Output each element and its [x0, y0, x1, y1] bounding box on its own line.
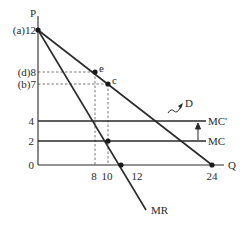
mc-prime-label: MC' — [208, 115, 227, 127]
point-q24 — [209, 162, 214, 167]
point-e-label: e — [99, 62, 104, 74]
point-c-label: c — [112, 74, 117, 86]
y-tick-12: (a)12 — [13, 24, 36, 37]
y-tick-0: 0 — [29, 159, 35, 171]
x-axis-label: Q — [228, 159, 236, 171]
y-tick-7: (b)7 — [18, 78, 37, 91]
x-tick-10: 10 — [102, 170, 114, 182]
y-tick-2: 2 — [29, 135, 35, 147]
y-axis-label: P — [30, 7, 36, 19]
x-tick-8: 8 — [91, 170, 97, 182]
point-mr-mc — [105, 138, 110, 143]
monopoly-diagram: P Q (a)12 (d)8 (b)7 4 2 0 8 10 12 24 e c… — [0, 0, 249, 232]
x-tick-12: 12 — [132, 170, 143, 182]
point-c — [105, 81, 110, 86]
axes — [38, 16, 224, 165]
demand-label: D — [185, 97, 193, 109]
mr-label: MR — [151, 204, 169, 216]
guide-lines — [38, 72, 108, 165]
mc-lines — [38, 121, 206, 141]
x-tick-24: 24 — [207, 170, 219, 182]
x-tick-labels: 8 10 12 24 — [91, 170, 218, 182]
demand-pointer-icon — [168, 108, 180, 113]
mc-label: MC — [208, 135, 225, 147]
point-mr-zero — [118, 162, 123, 167]
y-tick-labels: (a)12 (d)8 (b)7 4 2 0 — [13, 24, 37, 171]
point-e — [92, 69, 97, 74]
point-a — [35, 27, 40, 32]
y-tick-4: 4 — [29, 115, 35, 127]
mr-curve — [38, 30, 146, 210]
mc-shift-arrow-icon — [196, 123, 201, 140]
demand-pointer-arrowhead-icon — [178, 103, 183, 109]
